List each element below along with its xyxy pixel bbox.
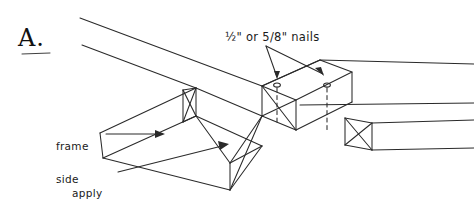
lower-board [100, 88, 262, 190]
right-board-end [345, 118, 474, 150]
frame-side-line-1: frame [56, 141, 89, 152]
illustration-canvas: A. ½" or 5/8" nails frame side apply glu… [0, 0, 474, 215]
nail-marker-2 [324, 83, 331, 130]
fig-letter-underline [22, 53, 50, 54]
apply-glue-leader [118, 141, 229, 172]
figure-letter: A. [18, 26, 45, 51]
nails-annotation: ½" or 5/8" nails [225, 31, 319, 43]
nail-block [262, 60, 352, 130]
left-end-face [183, 88, 196, 122]
apply-glue-annotation: apply glue [72, 166, 102, 215]
apply-glue-line-1: apply [72, 188, 102, 199]
frame-side-leader [106, 130, 165, 138]
